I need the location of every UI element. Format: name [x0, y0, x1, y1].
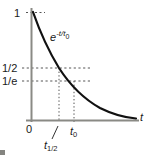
leader-line-t-half	[52, 126, 58, 139]
x-tick-label-t-half-subscript: 1/2	[47, 144, 57, 153]
curve-label-exponent: -t/t0	[56, 29, 69, 38]
exponential-decay-figure: 1 1/2 1/e 0 t0 t1/2 t e-t/t0	[0, 0, 152, 158]
curve-label-exponent-subscript: 0	[65, 33, 69, 40]
x-tick-label-t-zero: t0	[70, 126, 77, 139]
y-tick-label-one-over-e: 1/e	[2, 76, 17, 87]
x-tick-label-t-zero-subscript: 0	[73, 130, 77, 139]
curve-function-label: e-t/t0	[50, 30, 69, 43]
x-axis-name-label: t	[140, 112, 143, 123]
y-tick-label-one-half: 1/2	[2, 63, 17, 74]
x-tick-label-t-half: t1/2	[44, 140, 58, 153]
y-tick-label-one: 1	[14, 8, 20, 19]
scan-artifact-corner	[0, 150, 5, 155]
x-tick-label-zero: 0	[26, 124, 32, 135]
decay-curve	[33, 12, 136, 119]
